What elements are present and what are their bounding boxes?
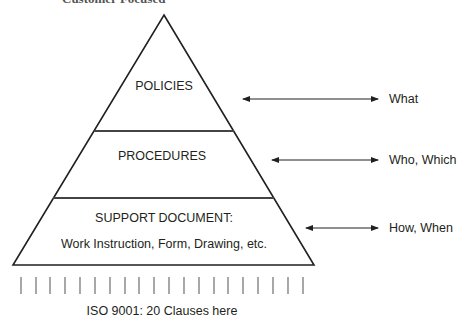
tier-label-procedures: PROCEDURES (118, 150, 206, 163)
annotation-how-when: How, When (389, 222, 453, 235)
clause-ticks (21, 277, 303, 294)
tier-sublabel-support-document: Work Instruction, Form, Drawing, etc. (61, 238, 267, 251)
tier-label-support-document: SUPPORT DOCUMENT: (95, 212, 233, 225)
tier-label-policies: POLICIES (135, 80, 193, 93)
pyramid-outline (13, 15, 314, 265)
annotation-what: What (389, 93, 418, 106)
footer-caption: ISO 9001: 20 Clauses here (87, 305, 238, 318)
annotation-who-which: Who, Which (389, 154, 456, 167)
